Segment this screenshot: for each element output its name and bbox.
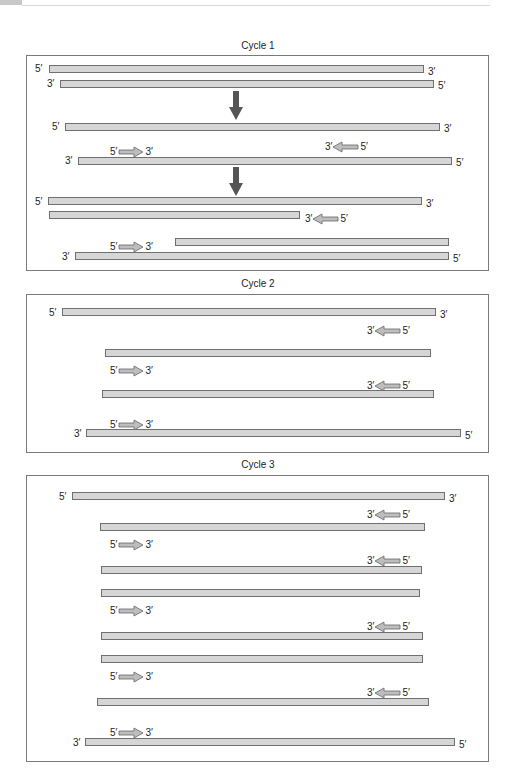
reverse-primer: 3′5′ bbox=[367, 321, 410, 333]
dna-strand bbox=[65, 123, 440, 131]
dna-strand bbox=[75, 252, 449, 260]
header-tab bbox=[0, 0, 22, 5]
strand-end-label: 5′ bbox=[52, 122, 59, 132]
dna-strand bbox=[105, 349, 431, 357]
strand-end-label: 5′ bbox=[49, 308, 56, 318]
arrow-left-icon bbox=[312, 213, 340, 225]
forward-primer: 5′3′ bbox=[110, 723, 153, 735]
arrow-right-icon bbox=[117, 727, 145, 739]
strand-end-label: 5′ bbox=[459, 740, 466, 750]
arrow-left-icon bbox=[374, 621, 402, 633]
dna-strand bbox=[60, 80, 434, 88]
arrow-right-icon bbox=[117, 146, 145, 158]
arrow-left-icon bbox=[332, 141, 360, 153]
strand-end-label: 5′ bbox=[35, 197, 42, 207]
strand-end-label: 5′ bbox=[59, 492, 66, 502]
dna-strand bbox=[48, 197, 422, 205]
reverse-primer: 3′5′ bbox=[367, 505, 410, 517]
strand-end-label: 5′ bbox=[453, 254, 460, 264]
strand-end-label: 3′ bbox=[65, 156, 72, 166]
arrow-left-icon bbox=[374, 687, 402, 699]
dna-strand bbox=[62, 308, 436, 316]
arrow-right-icon bbox=[117, 605, 145, 617]
cycle-3-title: Cycle 3 bbox=[208, 459, 308, 470]
forward-primer: 5′3′ bbox=[110, 237, 153, 249]
reverse-primer: 3′5′ bbox=[367, 617, 410, 629]
forward-primer: 5′3′ bbox=[110, 415, 153, 427]
page-header-strip bbox=[0, 0, 511, 6]
dna-strand bbox=[101, 632, 423, 640]
arrow-right-icon bbox=[117, 365, 145, 377]
dna-strand bbox=[49, 65, 424, 73]
cycle-2-title: Cycle 2 bbox=[208, 278, 308, 289]
dna-strand bbox=[72, 492, 445, 500]
strand-end-label: 5′ bbox=[465, 431, 472, 441]
down-arrow-icon bbox=[229, 91, 243, 121]
strand-end-label: 3′ bbox=[449, 494, 456, 504]
dna-strand bbox=[100, 523, 425, 531]
down-arrow-icon bbox=[229, 167, 243, 197]
strand-end-label: 3′ bbox=[426, 199, 433, 209]
reverse-primer: 3′5′ bbox=[367, 376, 410, 388]
dna-strand bbox=[97, 698, 429, 706]
reverse-primer: 3′5′ bbox=[325, 137, 368, 149]
forward-primer: 5′3′ bbox=[110, 361, 153, 373]
arrow-left-icon bbox=[374, 509, 402, 521]
reverse-primer: 3′5′ bbox=[305, 209, 348, 221]
dna-strand bbox=[101, 589, 420, 597]
reverse-primer: 3′5′ bbox=[367, 551, 410, 563]
dna-strand bbox=[78, 157, 452, 165]
forward-primer: 5′3′ bbox=[110, 535, 153, 547]
strand-end-label: 5′ bbox=[456, 158, 463, 168]
dna-strand-short bbox=[49, 211, 300, 219]
dna-strand-short bbox=[175, 238, 449, 246]
dna-strand bbox=[85, 738, 455, 746]
strand-end-label: 3′ bbox=[74, 429, 81, 439]
strand-end-label: 3′ bbox=[428, 67, 435, 77]
dna-strand bbox=[102, 390, 434, 398]
cycle-1-title: Cycle 1 bbox=[208, 40, 308, 51]
forward-primer: 5′3′ bbox=[110, 142, 153, 154]
strand-end-label: 3′ bbox=[47, 79, 54, 89]
arrow-right-icon bbox=[117, 539, 145, 551]
strand-end-label: 5′ bbox=[438, 81, 445, 91]
arrow-left-icon bbox=[374, 555, 402, 567]
strand-end-label: 3′ bbox=[73, 738, 80, 748]
arrow-right-icon bbox=[117, 241, 145, 253]
reverse-primer: 3′5′ bbox=[367, 683, 410, 695]
strand-end-label: 3′ bbox=[444, 124, 451, 134]
cycle-3-panel bbox=[26, 475, 489, 762]
forward-primer: 5′3′ bbox=[110, 667, 153, 679]
dna-strand bbox=[86, 429, 461, 437]
dna-strand bbox=[101, 566, 422, 574]
arrow-right-icon bbox=[117, 671, 145, 683]
forward-primer: 5′3′ bbox=[110, 601, 153, 613]
header-rule bbox=[22, 5, 490, 6]
strand-end-label: 3′ bbox=[62, 252, 69, 262]
arrow-left-icon bbox=[374, 325, 402, 337]
strand-end-label: 3′ bbox=[440, 310, 447, 320]
strand-end-label: 5′ bbox=[35, 64, 42, 74]
dna-strand bbox=[101, 655, 423, 663]
